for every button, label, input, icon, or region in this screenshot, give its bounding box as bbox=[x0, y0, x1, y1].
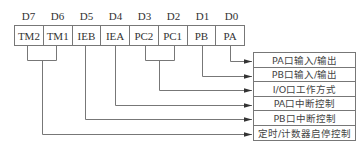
connector-ieb bbox=[86, 46, 253, 120]
connector-pc-bracket bbox=[146, 46, 175, 61]
connector-pa bbox=[231, 46, 253, 62]
connector-pc bbox=[160, 61, 253, 91]
connector-tm-bracket bbox=[28, 46, 57, 61]
connector-lines bbox=[0, 0, 364, 152]
connector-iea bbox=[116, 46, 253, 106]
connector-tm bbox=[43, 61, 253, 135]
